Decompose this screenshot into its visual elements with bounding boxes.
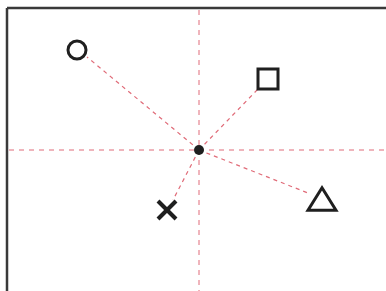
diagram-canvas [0, 0, 386, 291]
center-point [194, 145, 204, 155]
center-dot-icon [194, 145, 204, 155]
background [0, 0, 386, 291]
